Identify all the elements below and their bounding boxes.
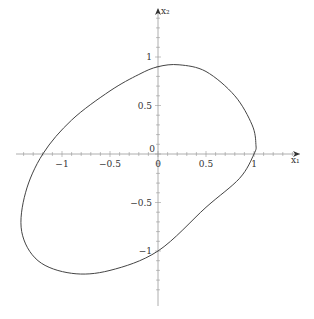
x-tick-label: 1 xyxy=(251,159,257,169)
x-axis-label: x₁ xyxy=(291,155,300,165)
y-axis-label: x₂ xyxy=(161,6,170,16)
origin-label-below: 0 xyxy=(155,159,161,169)
phase-portrait-chart: −1−0.50.51−1−0.50.5100 x₁ x₂ xyxy=(0,0,314,319)
x-tick-label: −0.5 xyxy=(99,159,121,169)
x-tick-label: 0.5 xyxy=(199,159,214,169)
y-tick-label: 0.5 xyxy=(138,101,153,111)
y-tick-label: −0.5 xyxy=(130,198,152,208)
origin-label: 0 xyxy=(149,144,155,154)
closed-orbit-curve xyxy=(21,65,256,275)
y-tick-label: −1 xyxy=(139,246,152,256)
x-tick-label: −1 xyxy=(55,159,68,169)
y-tick-label: 1 xyxy=(146,52,152,62)
